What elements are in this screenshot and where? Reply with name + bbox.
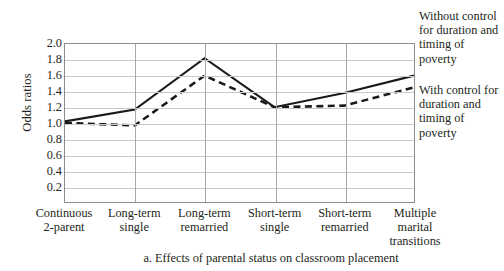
y-tick-label: 0.4 <box>32 165 62 178</box>
series-lines <box>65 44 414 202</box>
y-tick-label: 1.0 <box>32 117 62 130</box>
horizontal-gridline <box>65 108 414 109</box>
horizontal-gridline <box>65 60 414 61</box>
x-tick-label-line: marital <box>369 220 461 234</box>
horizontal-gridline <box>65 172 414 173</box>
x-axis-tick-labels: Continuous2-parentLong-termsingleLong-te… <box>0 206 504 252</box>
x-tick-label: Multiplemaritaltransitions <box>369 206 461 249</box>
vertical-gridline <box>205 44 206 202</box>
plot-area <box>64 43 415 203</box>
y-tick-label: 0.6 <box>32 149 62 162</box>
vertical-gridline <box>346 44 347 202</box>
y-tick-label: 1.4 <box>32 85 62 98</box>
horizontal-gridline <box>65 140 414 141</box>
y-tick-label: 0.8 <box>32 133 62 146</box>
y-tick-label: 0.2 <box>32 181 62 194</box>
horizontal-gridline <box>65 92 414 93</box>
vertical-gridline <box>135 44 136 202</box>
y-tick-label: 2.0 <box>32 37 62 50</box>
y-tick-label: 1.8 <box>32 53 62 66</box>
series-line-1 <box>65 58 414 121</box>
legend-item-with-control: With control for duration and timing of … <box>419 83 504 140</box>
x-tick-label-line: Multiple <box>369 206 461 220</box>
horizontal-gridline <box>65 156 414 157</box>
chart-figure: Odds ratios 2.01.81.61.41.21.00.80.60.40… <box>0 0 504 271</box>
horizontal-gridline <box>65 124 414 125</box>
y-axis-tick-labels: 2.01.81.61.41.21.00.80.60.40.2 <box>32 36 62 204</box>
vertical-gridline <box>276 44 277 202</box>
y-tick-label: 1.2 <box>32 101 62 114</box>
figure-caption-text: a. Effects of parental status on classro… <box>105 251 398 265</box>
legend-item-without-control: Without control for duration and timing … <box>419 9 504 66</box>
x-tick-label-line: transitions <box>369 234 461 248</box>
horizontal-gridline <box>65 188 414 189</box>
horizontal-gridline <box>65 76 414 77</box>
figure-caption: a. Effects of parental status on classro… <box>0 251 504 266</box>
y-tick-label: 1.6 <box>32 69 62 82</box>
